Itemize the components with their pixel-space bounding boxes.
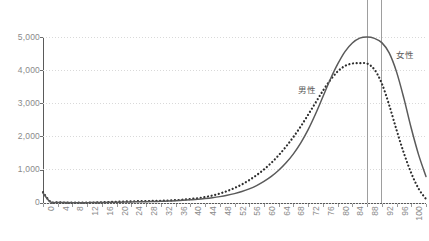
x-tick-mark	[279, 204, 280, 207]
x-tick-mark	[72, 204, 73, 207]
x-tick-label-44: 44	[209, 206, 218, 216]
x-tick-label-48: 48	[224, 206, 233, 216]
x-tick-mark	[205, 204, 206, 207]
series-label-male: 男性	[298, 85, 316, 95]
x-tick-mark	[146, 204, 147, 207]
x-tick-mark	[190, 204, 191, 207]
x-tick-label-68: 68	[297, 206, 306, 216]
x-tick-label-20: 20	[121, 206, 130, 216]
x-tick-label-96: 96	[401, 206, 410, 216]
chart-container: 5,000 4,000 3,000 2,000 1,000 0 04812162…	[0, 0, 429, 241]
x-tick-mark	[338, 204, 339, 207]
x-tick-label-12: 12	[91, 206, 100, 216]
y-tick-label-2000: 2,000	[2, 132, 40, 141]
x-tick-label-76: 76	[327, 206, 336, 216]
x-tick-label-72: 72	[312, 206, 321, 216]
x-tick-label-100: 100	[415, 206, 424, 221]
x-tick-mark	[161, 204, 162, 207]
x-tick-mark	[43, 204, 44, 207]
x-tick-mark	[367, 204, 368, 207]
x-tick-mark	[102, 204, 103, 207]
x-tick-mark	[293, 204, 294, 207]
x-tick-mark	[176, 204, 177, 207]
plot-area	[43, 14, 426, 203]
x-tick-label-64: 64	[283, 206, 292, 216]
y-tick-label-3000: 3,000	[2, 99, 40, 108]
series-curves	[43, 14, 426, 203]
x-tick-label-24: 24	[135, 206, 144, 216]
x-tick-label-80: 80	[342, 206, 351, 216]
series-curve-male	[43, 63, 426, 203]
x-tick-label-88: 88	[371, 206, 380, 216]
x-tick-mark	[58, 204, 59, 207]
x-axis-labels: 0481216202428323640444852566064687276808…	[43, 204, 426, 241]
x-tick-label-16: 16	[106, 206, 115, 216]
x-tick-label-0: 0	[47, 206, 56, 211]
x-tick-mark	[117, 204, 118, 207]
x-tick-mark	[426, 204, 427, 207]
x-tick-mark	[352, 204, 353, 207]
x-tick-label-32: 32	[165, 206, 174, 216]
x-tick-label-40: 40	[194, 206, 203, 216]
x-tick-label-4: 4	[62, 206, 71, 211]
y-tick-label-4000: 4,000	[2, 66, 40, 75]
x-tick-label-60: 60	[268, 206, 277, 216]
x-tick-mark	[411, 204, 412, 207]
x-tick-label-52: 52	[239, 206, 248, 216]
x-tick-label-36: 36	[180, 206, 189, 216]
x-tick-mark	[87, 204, 88, 207]
x-tick-mark	[220, 204, 221, 207]
series-curve-female	[43, 37, 426, 203]
x-tick-mark	[131, 204, 132, 207]
x-tick-mark	[308, 204, 309, 207]
x-tick-mark	[264, 204, 265, 207]
x-tick-mark	[397, 204, 398, 207]
y-axis-labels: 5,000 4,000 3,000 2,000 1,000 0	[0, 0, 40, 241]
x-tick-label-28: 28	[150, 206, 159, 216]
x-tick-label-92: 92	[386, 206, 395, 216]
x-tick-mark	[235, 204, 236, 207]
series-label-female: 女性	[396, 50, 414, 60]
y-tick-label-0: 0	[2, 198, 40, 207]
x-tick-mark	[382, 204, 383, 207]
x-tick-label-8: 8	[76, 206, 85, 211]
x-tick-mark	[249, 204, 250, 207]
x-tick-mark	[323, 204, 324, 207]
y-tick-label-1000: 1,000	[2, 165, 40, 174]
x-tick-label-56: 56	[253, 206, 262, 216]
y-tick-label-5000: 5,000	[2, 33, 40, 42]
x-tick-label-84: 84	[356, 206, 365, 216]
